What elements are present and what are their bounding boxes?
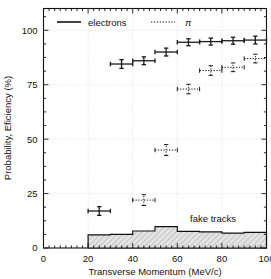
x-tick-label: 60 bbox=[172, 253, 183, 264]
y-tick-label: 100 bbox=[22, 25, 38, 36]
x-axis-title: Transverse Momentum (MeV/c) bbox=[88, 266, 221, 277]
x-tick-label: 80 bbox=[217, 253, 228, 264]
legend-pions-label: π bbox=[185, 17, 192, 28]
x-tick-label: 40 bbox=[127, 253, 138, 264]
x-tick-label: 0 bbox=[41, 253, 46, 264]
legend-electrons-label: electrons bbox=[88, 17, 127, 28]
probability-efficiency-plot: 0204060801000255075100 Transverse Moment… bbox=[0, 0, 271, 279]
y-tick-label: 25 bbox=[27, 188, 38, 199]
y-tick-label: 50 bbox=[27, 134, 38, 145]
x-tick-label: 20 bbox=[83, 253, 94, 264]
y-tick-label: 75 bbox=[27, 79, 38, 90]
x-tick-label: 100 bbox=[259, 253, 271, 264]
fake-tracks-annotation: fake tracks bbox=[190, 213, 236, 224]
y-tick-label: 0 bbox=[32, 242, 37, 253]
chart-figure: 0204060801000255075100 Transverse Moment… bbox=[0, 0, 271, 279]
y-axis-title: Probability, Eficiency (%) bbox=[2, 76, 13, 180]
